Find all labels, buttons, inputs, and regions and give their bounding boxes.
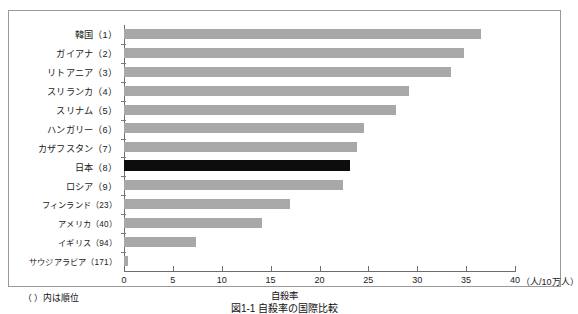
plot-area (124, 25, 515, 271)
chart-frame: 韓国（1） ガイアナ（2） リトアニア（3） スリランカ（4） スリナム（5） … (8, 10, 561, 287)
y-tick (121, 214, 126, 215)
category-label-japan: 日本（8） (17, 157, 121, 176)
bar-row (124, 63, 515, 82)
y-tick (121, 157, 126, 158)
bar-row (124, 157, 515, 176)
category-label: リトアニア（3） (17, 63, 121, 82)
x-tick-label: 0 (121, 275, 126, 285)
category-label: カザフスタン（7） (17, 138, 121, 157)
bar (124, 67, 451, 77)
category-label: 韓国（1） (17, 25, 121, 44)
bar-japan (124, 160, 350, 171)
y-tick (121, 252, 126, 253)
category-label: サウジアラビア（171） (17, 252, 121, 271)
y-tick (121, 233, 126, 234)
x-tick-label: 5 (170, 275, 175, 285)
category-label: スリナム（5） (17, 101, 121, 120)
y-tick (121, 139, 126, 140)
y-tick (121, 44, 126, 45)
category-label: アメリカ（40） (17, 214, 121, 233)
bar-row (124, 138, 515, 157)
x-tick-label: 15 (266, 275, 276, 285)
bar (124, 237, 196, 247)
bar-row (124, 195, 515, 214)
bar-row (124, 44, 515, 63)
bar-row (124, 214, 515, 233)
bar-row (124, 119, 515, 138)
figure-caption: 図1-1 自殺率の国際比較 (0, 300, 569, 314)
bar (124, 180, 343, 190)
x-tick (222, 266, 223, 272)
x-tick (368, 266, 369, 272)
x-tick-label: 10 (217, 275, 227, 285)
bar-row (124, 25, 515, 44)
x-tick-label: 30 (412, 275, 422, 285)
bar (124, 48, 464, 58)
bar-rows (124, 25, 515, 271)
category-label: ハンガリー（6） (17, 119, 121, 138)
bar (124, 86, 409, 96)
x-tick (515, 266, 516, 272)
x-tick (124, 266, 125, 272)
bar (124, 105, 396, 115)
bar-row (124, 233, 515, 252)
x-tick-label: 35 (461, 275, 471, 285)
bar (124, 256, 128, 266)
bar-row (124, 101, 515, 120)
bar (124, 199, 290, 209)
y-tick (121, 176, 126, 177)
y-tick (121, 120, 126, 121)
bar (124, 29, 481, 39)
bar (124, 142, 357, 152)
x-tick (320, 266, 321, 272)
x-tick (271, 266, 272, 272)
bar-row (124, 176, 515, 195)
bar-row (124, 82, 515, 101)
y-tick (121, 195, 126, 196)
x-tick (466, 266, 467, 272)
category-label: イギリス（94） (17, 233, 121, 252)
category-labels: 韓国（1） ガイアナ（2） リトアニア（3） スリランカ（4） スリナム（5） … (17, 25, 121, 271)
category-label: スリランカ（4） (17, 82, 121, 101)
bar (124, 218, 262, 228)
x-tick-label: 25 (363, 275, 373, 285)
category-label: フィンランド（23） (17, 195, 121, 214)
x-tick (173, 266, 174, 272)
category-label: ロシア（9） (17, 176, 121, 195)
y-tick (121, 101, 126, 102)
bar (124, 123, 364, 133)
x-tick-label: 40 (510, 275, 520, 285)
x-tick-label: 20 (314, 275, 324, 285)
category-label: ガイアナ（2） (17, 44, 121, 63)
x-axis-unit-label: （人/10万人） (521, 275, 578, 288)
y-tick (121, 63, 126, 64)
x-tick (417, 266, 418, 272)
y-tick (121, 82, 126, 83)
